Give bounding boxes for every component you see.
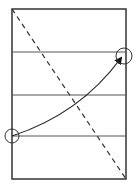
arrow-curve [12,58,121,136]
dashed-diagonal-line [12,9,126,179]
end-circle-marker [116,48,132,64]
diagram-canvas [0,0,138,188]
diagram [0,0,138,188]
